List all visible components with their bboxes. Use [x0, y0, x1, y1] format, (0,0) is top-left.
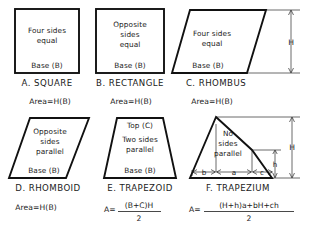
figure-rectangle: Opposite sides equal Base (B) B. RECTANG…: [96, 9, 164, 106]
trapezoid-title: E. TRAPEZOID: [107, 183, 172, 193]
trapezium-dim-h: h: [273, 160, 278, 169]
rectangle-inner-line-2: sides: [120, 30, 139, 39]
trapezium-formula: A= (H+h)a+bH+ch 2: [189, 201, 294, 223]
rectangle-formula: Area=H(B): [110, 97, 152, 106]
trapezoid-inner-line-2: parallel: [126, 145, 154, 154]
trapezoid-formula-prefix: A=: [104, 205, 116, 214]
rhombus-formula: Area=H(B): [191, 97, 233, 106]
rhomboid-inner-line-2: sides: [40, 137, 59, 146]
geometry-plate: Four sides equal Base (B) A. SQUARE Area…: [0, 0, 311, 228]
trapezoid-formula-denominator: 2: [137, 214, 142, 223]
trapezium-inner-line-1: No: [223, 129, 234, 138]
trapezium-inner-line-2: sides: [218, 139, 237, 148]
trapezium-dim-a: a: [232, 168, 236, 177]
rectangle-inner-line-1: Opposite: [113, 20, 147, 29]
rectangle-title: B. RECTANGLE: [96, 78, 164, 88]
trapezium-formula-numerator: (H+h)a+bH+ch: [219, 201, 279, 210]
rectangle-base-label: Base (B): [114, 61, 146, 70]
trapezium-dim-c: c: [260, 168, 264, 177]
rhombus-inner-line-2: equal: [202, 39, 223, 48]
figure-square: Four sides equal Base (B) A. SQUARE Area…: [15, 9, 79, 106]
figures-canvas: Four sides equal Base (B) A. SQUARE Area…: [0, 0, 311, 228]
square-base-label: Base (B): [31, 61, 63, 70]
trapezium-base-dimensions: b a c: [192, 168, 273, 177]
square-inner-line-2: equal: [37, 36, 58, 45]
figure-rhomboid: Opposite sides parallel Base (B) D. RHOM…: [9, 118, 89, 212]
trapezium-formula-prefix: A=: [189, 205, 201, 214]
trapezoid-formula: A= (B+C)H 2: [104, 201, 161, 223]
trapezium-inner-line-3: parallel: [214, 149, 242, 158]
rhombus-h-label: H: [288, 38, 294, 47]
rhomboid-inner-line-1: Opposite: [33, 127, 67, 136]
trapezoid-base-label: Base (B): [124, 166, 156, 175]
trapezium-formula-denominator: 2: [247, 214, 252, 223]
rhomboid-base-label: Base (B): [28, 166, 60, 175]
rhombus-title: C. RHOMBUS: [186, 78, 246, 88]
trapezium-dim-b: b: [202, 168, 207, 177]
figure-rhombus: Four sides equal Base (B) H C. RHOMBUS A…: [172, 10, 300, 106]
trapezoid-inner-line-1: Two sides: [121, 135, 158, 144]
rectangle-inner-line-3: equal: [120, 40, 141, 49]
square-formula: Area=H(B): [29, 97, 71, 106]
figure-trapezoid: Top (C) Two sides parallel Base (B) E. T…: [104, 118, 176, 223]
trapezium-title: F. TRAPEZIUM: [206, 183, 270, 193]
trapezoid-formula-numerator: (B+C)H: [125, 201, 154, 210]
figure-trapezium: No sides parallel b a c: [189, 117, 300, 223]
rhombus-inner-line-1: Four sides: [193, 29, 231, 38]
trapezoid-top-label: Top (C): [126, 121, 153, 130]
rhombus-base-label: Base (B): [192, 61, 224, 70]
square-inner-line-1: Four sides: [28, 26, 66, 35]
square-title: A. SQUARE: [21, 78, 72, 88]
rhomboid-inner-line-3: parallel: [36, 147, 64, 156]
trapezium-dim-H: H: [289, 143, 295, 152]
rhomboid-formula: Area=H(B): [15, 203, 57, 212]
rhomboid-title: D. RHOMBOID: [15, 183, 80, 193]
